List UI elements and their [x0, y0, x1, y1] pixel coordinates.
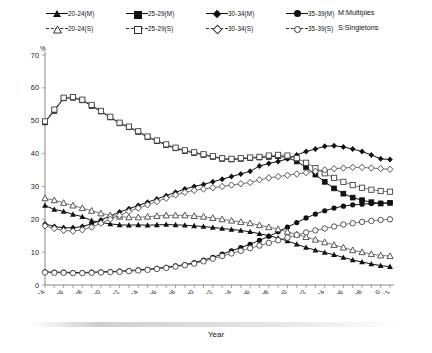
svg-text:1992: 1992	[200, 288, 214, 294]
diamond-hollow-icon	[206, 23, 228, 34]
series-25-29(M)	[43, 95, 393, 206]
svg-text:2006: 2006	[330, 288, 344, 294]
svg-text:1982: 1982	[106, 288, 120, 294]
figure-caption	[6, 344, 426, 352]
legend-row-multiples: 20-24(M) 25-29(M) 30-34(M) 35-39(M)	[46, 6, 366, 21]
legend-item-25-29-m: 25-29(M)	[126, 8, 206, 19]
svg-text:1990: 1990	[181, 288, 195, 294]
legend-label: 25-29(S)	[148, 25, 173, 32]
svg-text:2004: 2004	[312, 288, 326, 294]
svg-text:1998: 1998	[256, 288, 270, 294]
svg-text:1978: 1978	[69, 288, 83, 294]
svg-text:20: 20	[31, 215, 39, 224]
svg-text:1988: 1988	[162, 288, 176, 294]
svg-text:2010: 2010	[367, 288, 381, 294]
legend-item-30-34-s: 30-34(S)	[206, 23, 286, 34]
svg-text:70: 70	[31, 51, 39, 60]
svg-text:10: 10	[31, 248, 39, 257]
svg-text:0: 0	[35, 281, 39, 290]
diamond-filled-icon	[206, 8, 228, 19]
svg-text:40: 40	[31, 149, 39, 158]
legend-label: 30-34(M)	[228, 10, 254, 17]
triangle-filled-icon	[46, 8, 68, 19]
svg-text:30: 30	[31, 182, 39, 191]
svg-text:2008: 2008	[349, 288, 363, 294]
chart-figure: 20-24(M) 25-29(M) 30-34(M) 35-39(M) 20-2…	[0, 0, 432, 353]
legend-note-singletons: S:Singletons	[338, 23, 378, 32]
legend-label: 35-39(S)	[308, 25, 333, 32]
square-filled-icon	[126, 8, 148, 19]
svg-text:1976: 1976	[50, 288, 64, 294]
circle-filled-icon	[286, 8, 308, 19]
chart-svg: 010203040506070%197419761978198019821984…	[0, 44, 432, 294]
svg-text:1984: 1984	[125, 288, 139, 294]
series-25-29(S)	[42, 94, 392, 194]
svg-text:1980: 1980	[88, 288, 102, 294]
legend-note-multiples: M:Multiples	[338, 8, 374, 17]
svg-text:1986: 1986	[144, 288, 158, 294]
svg-text:60: 60	[31, 83, 39, 92]
plot-area: 010203040506070%197419761978198019821984…	[0, 44, 432, 294]
legend-label: 35-39(M)	[308, 10, 334, 17]
legend-label: 25-29(M)	[148, 10, 174, 17]
svg-text:2000: 2000	[274, 288, 288, 294]
caption-divider	[30, 322, 402, 327]
svg-text:50: 50	[31, 116, 39, 125]
chart-legend: 20-24(M) 25-29(M) 30-34(M) 35-39(M) 20-2…	[46, 6, 366, 36]
circle-hollow-icon	[286, 23, 308, 34]
x-axis-title: Year	[0, 330, 432, 339]
legend-row-singletons: 20-24(S) 25-29(S) 30-34(S) 35-39(S)	[46, 21, 366, 36]
svg-text:%: %	[40, 45, 46, 52]
legend-label: 30-34(S)	[228, 25, 253, 32]
legend-item-30-34-m: 30-34(M)	[206, 8, 286, 19]
legend-item-25-29-s: 25-29(S)	[126, 23, 206, 34]
legend-item-20-24-s: 20-24(S)	[46, 23, 126, 34]
square-hollow-icon	[126, 23, 148, 34]
svg-text:1994: 1994	[218, 288, 232, 294]
legend-label: 20-24(M)	[68, 10, 94, 17]
triangle-hollow-icon	[46, 23, 68, 34]
svg-text:2002: 2002	[293, 288, 307, 294]
svg-text:1996: 1996	[237, 288, 251, 294]
legend-label: 20-24(S)	[68, 25, 93, 32]
legend-item-20-24-m: 20-24(M)	[46, 8, 126, 19]
